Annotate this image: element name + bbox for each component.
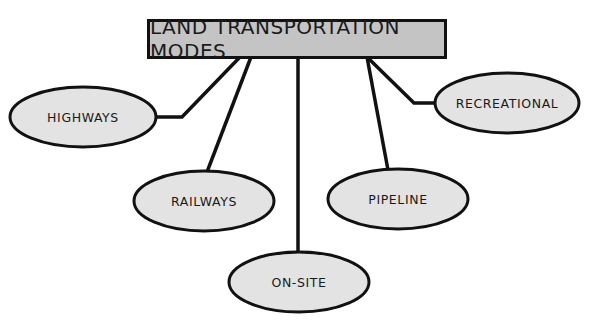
node-pipeline: PIPELINE [328, 169, 468, 229]
node-highways: HIGHWAYS [10, 87, 156, 147]
title-box: LAND TRANSPORTATION MODES [147, 19, 447, 59]
diagram-canvas: LAND TRANSPORTATION MODES HIGHWAYS RAILW… [0, 0, 592, 327]
node-label-pipeline: PIPELINE [368, 192, 427, 207]
node-label-highways: HIGHWAYS [47, 110, 119, 125]
node-label-railways: RAILWAYS [171, 194, 237, 209]
node-label-recreational: RECREATIONAL [456, 96, 559, 111]
node-recreational: RECREATIONAL [435, 73, 579, 133]
diagram-title: LAND TRANSPORTATION MODES [150, 15, 444, 63]
node-on-site: ON-SITE [229, 252, 369, 312]
node-railways: RAILWAYS [134, 171, 274, 231]
node-label-on-site: ON-SITE [271, 275, 326, 290]
